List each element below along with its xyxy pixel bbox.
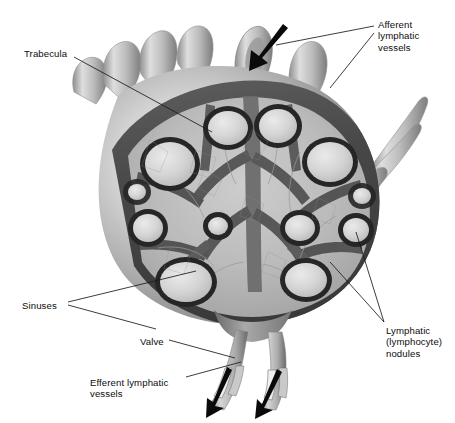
lymphatic-nodule [123,179,151,205]
efferent-vessels-group [206,330,288,419]
lymphatic-nodule [302,137,358,187]
label-lymphatic-nodules: Lymphatic (lymphocyte) nodules [386,325,442,359]
leader-valve [169,340,235,358]
lymphatic-nodule [203,106,253,150]
lymphatic-nodule [140,137,200,191]
lymphatic-nodule [128,209,168,247]
leader-afferent [276,26,374,45]
label-sinuses: Sinuses [22,300,57,311]
lymphatic-nodule [338,213,374,247]
leader-sinuses [68,305,156,329]
lymphatic-nodule [280,210,320,246]
lymphatic-nodule [254,104,302,148]
label-efferent-lymphatic-vessels: Efferent lymphatic vessels [90,377,168,400]
lymphatic-nodule [155,257,217,307]
afferent-vessel-stump [73,57,107,104]
lymph-node-figure: Trabecula Afferent lymphatic vessels Sin… [0,0,455,423]
leader-afferent [330,33,374,88]
label-afferent-lymphatic-vessels: Afferent lymphatic vessels [378,19,419,53]
lymphatic-nodule [280,258,332,302]
lymphatic-nodule [203,212,233,240]
label-valve: Valve [140,336,164,347]
lymph-node-illustration [0,0,455,423]
label-trabecula: Trabecula [24,48,67,59]
lymphatic-nodule [348,183,376,209]
